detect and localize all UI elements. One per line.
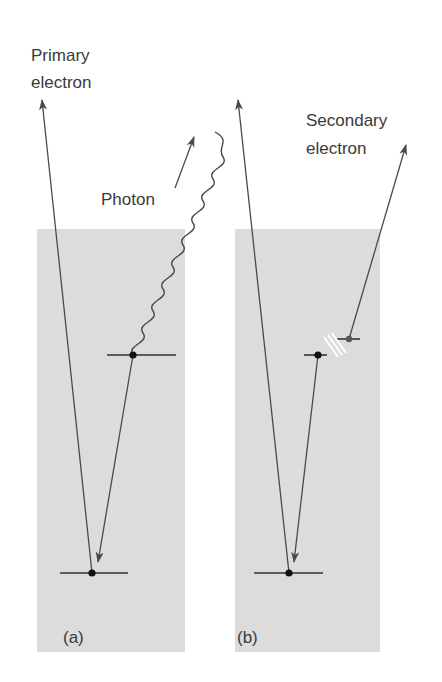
primary-electron-arrow-a: [42, 100, 92, 573]
electron-dot-ejected-b: [346, 336, 352, 342]
electron-dot-upper-a: [129, 351, 136, 358]
transition-arrow-b: [294, 355, 318, 562]
panel-b-graphics: [238, 100, 406, 577]
photon-label: Photon: [101, 189, 155, 210]
electron-dot-lower-b: [285, 569, 292, 576]
primary-electron-label-line1: Primary: [31, 45, 90, 66]
panel-b-caption: (b): [237, 627, 258, 648]
transition-arrow-a: [98, 355, 133, 562]
diagram-graphics: [0, 0, 442, 682]
electron-dot-lower-a: [88, 569, 95, 576]
photon-wave-icon: [132, 132, 225, 355]
secondary-electron-label-line2: electron: [306, 138, 366, 159]
electron-dot-upper-b: [314, 351, 321, 358]
photon-direction-arrow: [175, 137, 194, 188]
primary-electron-arrow-b: [238, 100, 289, 573]
panel-a-graphics: [42, 100, 224, 577]
energy-transfer-icon: [324, 333, 346, 357]
secondary-electron-arrow: [349, 145, 406, 339]
primary-electron-label-line2: electron: [31, 72, 91, 93]
panel-a-caption: (a): [63, 627, 84, 648]
secondary-electron-label-line1: Secondary: [306, 110, 387, 131]
